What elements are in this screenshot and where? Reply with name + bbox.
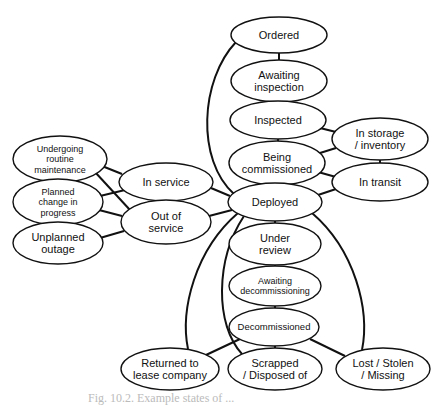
state-label: Undergoing (37, 144, 84, 154)
edge-inspected-storage (320, 128, 336, 132)
state-node-lost: Lost / Stolen/ Missing (336, 348, 430, 390)
edge-inservice-maintenance (102, 166, 122, 174)
edge-decommissioned-returned (206, 339, 240, 355)
state-node-under-review: Underreview (229, 223, 321, 265)
state-label: review (259, 244, 291, 256)
state-label: outage (41, 243, 75, 255)
state-label: In service (142, 176, 189, 188)
state-node-unplanned-outage: Unplannedoutage (13, 222, 103, 264)
state-node-deployed: Deployed (228, 183, 322, 221)
edge-decommissioned-lost (310, 339, 345, 356)
edge-outofservice-unplanned (100, 231, 124, 238)
edge-deployed-outofservice (209, 210, 232, 216)
state-label: Planned (41, 187, 74, 197)
state-label: Unplanned (31, 231, 84, 243)
state-node-awaiting-decommissioning: Awaitingdecommissioning (229, 266, 321, 306)
state-label: Deployed (252, 196, 298, 208)
state-node-undergoing-maintenance: Undergoingroutinemaintenance (13, 136, 107, 182)
state-label: inspection (254, 81, 304, 93)
state-label: Scrapped (251, 357, 298, 369)
state-label: In storage (356, 127, 405, 139)
state-node-awaiting-inspection: Awaitinginspection (231, 60, 327, 102)
state-node-scrapped: Scrapped/ Disposed of (228, 348, 322, 390)
edge-commissioned-storage (320, 148, 336, 153)
state-node-returned: Returned tolease company (121, 348, 219, 390)
state-label: Inspected (254, 114, 302, 126)
state-label: Returned to (141, 357, 198, 369)
state-node-ordered: Ordered (231, 17, 327, 53)
edge-deployed-inservice (211, 188, 230, 196)
state-label: decommissioning (240, 286, 310, 296)
state-label: Under (260, 232, 290, 244)
state-label: Being (263, 151, 291, 163)
state-label: change in (38, 197, 77, 207)
state-node-out-of-service: Out ofservice (121, 200, 211, 244)
state-label: maintenance (34, 165, 86, 175)
state-label: Decommissioned (238, 321, 311, 332)
state-node-being-commissioned: Beingcommissioned (229, 141, 325, 185)
state-label: service (149, 222, 184, 234)
nodes-layer: OrderedAwaitinginspectionInspectedBeingc… (13, 17, 430, 390)
state-label: / inventory (355, 139, 406, 151)
state-label: / Missing (361, 369, 404, 381)
state-node-decommissioned: Decommissioned (229, 308, 319, 346)
state-node-in-service: In service (119, 163, 213, 201)
state-label: Out of (151, 210, 182, 222)
figure-caption: Fig. 10.2. Example states of ... (88, 391, 234, 406)
state-label: commissioned (242, 163, 312, 175)
state-label: / Disposed of (243, 369, 308, 381)
state-node-in-transit: In transit (332, 163, 428, 201)
state-label: Awaiting (258, 69, 299, 81)
edge-outofservice-planned (99, 210, 122, 216)
state-label: progress (40, 208, 76, 218)
state-node-planned-change: Plannedchange inprogress (13, 179, 103, 225)
state-label: Awaiting (258, 276, 292, 286)
state-label: routine (46, 154, 74, 164)
state-node-inspected: Inspected (230, 101, 326, 139)
state-label: lease company (133, 369, 207, 381)
state-node-in-storage: In storage/ inventory (332, 118, 428, 160)
state-label: Lost / Stolen (352, 357, 413, 369)
state-label: In transit (359, 176, 401, 188)
state-label: Ordered (259, 29, 299, 41)
